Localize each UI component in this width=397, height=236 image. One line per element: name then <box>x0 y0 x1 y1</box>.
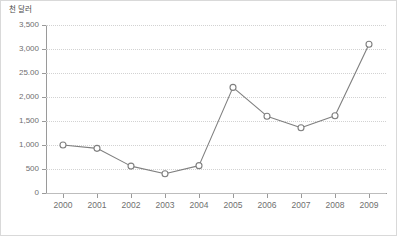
y-tick-label: 25.00 <box>1 69 39 77</box>
plot-area <box>46 25 386 193</box>
x-tick-mark <box>301 194 302 198</box>
y-tick-mark <box>42 73 46 74</box>
gridline <box>46 145 386 147</box>
y-axis-unit-label: 천 달러 <box>9 5 32 14</box>
x-tick-mark <box>97 194 98 198</box>
x-tick-mark <box>165 194 166 198</box>
x-tick-mark <box>199 194 200 198</box>
y-tick-mark <box>42 97 46 98</box>
x-tick-mark <box>131 194 132 198</box>
x-tick-mark <box>63 194 64 198</box>
x-tick-mark <box>233 194 234 198</box>
y-tick-mark <box>42 169 46 170</box>
gridline <box>46 25 386 27</box>
y-tick-mark <box>42 121 46 122</box>
y-tick-label: 0 <box>1 189 39 197</box>
y-tick-mark <box>42 25 46 26</box>
x-tick-mark <box>369 194 370 198</box>
x-tick-label: 2009 <box>349 200 389 210</box>
y-tick-label: 1,500 <box>1 117 39 125</box>
y-tick-label: 3,500 <box>1 21 39 29</box>
gridline <box>46 121 386 123</box>
y-tick-label: 500 <box>1 165 39 173</box>
x-tick-mark <box>335 194 336 198</box>
chart-figure: 천 달러 05001,0001,5002,00025.003,0003,5002… <box>0 0 397 236</box>
gridline <box>46 97 386 99</box>
gridline <box>46 169 386 171</box>
y-tick-label: 1,000 <box>1 141 39 149</box>
y-tick-label: 2,000 <box>1 93 39 101</box>
y-tick-mark <box>42 49 46 50</box>
x-tick-mark <box>267 194 268 198</box>
y-tick-mark <box>42 193 46 194</box>
y-tick-label: 3,000 <box>1 45 39 53</box>
y-tick-mark <box>42 145 46 146</box>
gridline <box>46 49 386 51</box>
gridline <box>46 73 386 75</box>
